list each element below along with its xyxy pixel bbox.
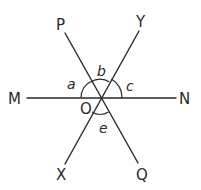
angle-label-a: a — [67, 76, 76, 92]
point-label-q: Q — [136, 166, 148, 184]
angle-arc-a — [81, 81, 91, 98]
angle-label-b: b — [97, 63, 106, 79]
point-label-y: Y — [135, 13, 146, 31]
diagram-canvas: P Y M N X Q O a b c e — [0, 0, 201, 190]
angle-label-c: c — [126, 78, 134, 94]
point-label-x: X — [56, 166, 66, 184]
point-label-n: N — [179, 90, 190, 108]
angle-arc-c — [111, 79, 122, 98]
point-label-p: P — [56, 16, 65, 34]
point-label-o: O — [80, 100, 92, 118]
angle-label-e: e — [99, 120, 108, 136]
point-label-m: M — [8, 90, 21, 108]
angle-arc-b — [91, 79, 110, 82]
